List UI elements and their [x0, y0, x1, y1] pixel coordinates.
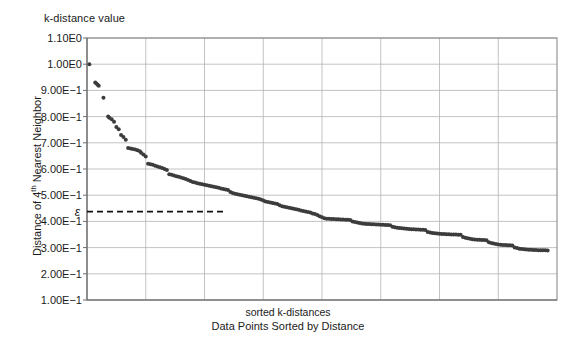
- data-point: [112, 120, 116, 124]
- data-point: [101, 96, 105, 100]
- data-point: [165, 168, 169, 172]
- data-point: [144, 154, 148, 158]
- data-point: [97, 84, 101, 88]
- x-axis-title-primary: sorted k-distances: [0, 306, 576, 318]
- x-axis-title-secondary: Data Points Sorted by Distance: [0, 320, 576, 332]
- data-point: [87, 62, 91, 66]
- data-point: [546, 248, 550, 252]
- plot-area: [0, 0, 576, 337]
- data-point: [117, 127, 121, 131]
- k-distance-chart-figure: k-distance value Distance of 4th Nearest…: [0, 0, 576, 337]
- data-point: [124, 138, 128, 142]
